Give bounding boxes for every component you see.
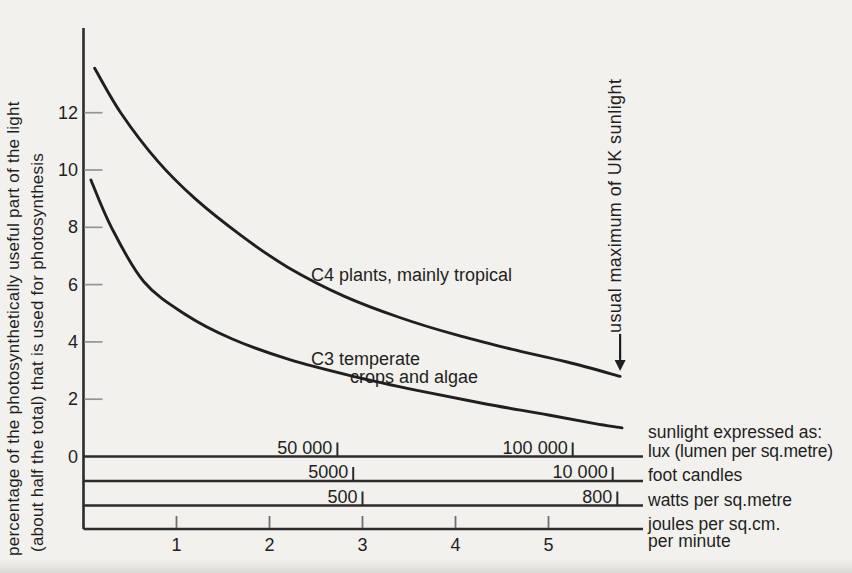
scale-tick-label: 10 000: [553, 462, 608, 482]
x-tick-label: 1: [171, 535, 181, 555]
unit-label-foot-candles: foot candles: [648, 467, 742, 485]
y-tick-label: 12: [58, 103, 78, 123]
uk-sunlight-annotation: usual maximum of UK sunlight: [606, 79, 624, 333]
y-tick-label: 0: [68, 447, 78, 467]
c4-curve: [95, 68, 620, 376]
scale-tick-label: 5000: [308, 462, 348, 482]
series-label-c3-line1: C3 temperate: [311, 350, 420, 368]
x-tick-label: 3: [357, 535, 367, 555]
y-tick-label: 2: [68, 389, 78, 409]
y-axis-title-line1: percentage of the photosynthetically use…: [5, 101, 22, 556]
unit-label-lux: lux (lumen per sq.metre): [648, 443, 833, 461]
chart-page: 02468101250 000100 000500010 00050080012…: [0, 0, 852, 573]
unit-label-joules-line2: per minute: [648, 533, 731, 551]
x-tick-label: 5: [543, 535, 553, 555]
x-tick-label: 2: [264, 535, 274, 555]
c3-curve: [91, 180, 622, 428]
x-tick-label: 4: [450, 535, 460, 555]
uk-arrow-head: [615, 360, 626, 371]
chart-svg: 02468101250 000100 000500010 00050080012…: [0, 0, 852, 573]
scale-tick-label: 500: [327, 487, 357, 507]
series-label-c4: C4 plants, mainly tropical: [311, 266, 512, 284]
y-tick-label: 10: [58, 160, 78, 180]
y-tick-label: 4: [68, 332, 78, 352]
y-axis-title-line2: (about half the total) that is used for …: [29, 153, 46, 552]
y-tick-label: 8: [68, 217, 78, 237]
scale-tick-label: 100 000: [503, 438, 568, 458]
series-label-c3-line2: crops and algae: [350, 368, 478, 386]
scales-header: sunlight expressed as:: [648, 424, 822, 442]
scale-tick-label: 50 000: [277, 438, 332, 458]
y-tick-label: 6: [68, 275, 78, 295]
scale-tick-label: 800: [582, 487, 612, 507]
unit-label-watts: watts per sq.metre: [648, 492, 792, 510]
